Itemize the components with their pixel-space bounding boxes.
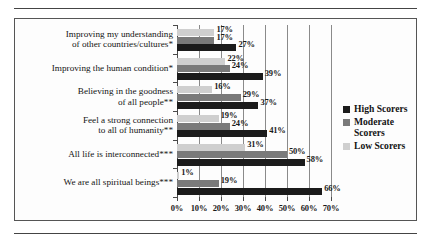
bar [177, 65, 230, 72]
category-label: Improving my understanding of other coun… [17, 29, 173, 50]
legend-item: High Scorers [343, 103, 415, 114]
category-label: All life is interconnected*** [17, 149, 173, 160]
x-tick-20 [221, 197, 222, 201]
bar-value-label: 50% [289, 147, 305, 156]
bar-group: 31%50%58% [177, 140, 331, 169]
bar [177, 144, 245, 151]
bar [177, 29, 214, 36]
bar-value-label: 66% [324, 184, 340, 193]
bar-value-label: 31% [247, 140, 263, 149]
bar-group: 22%24%39% [177, 54, 331, 83]
bar-group: 19%24%41% [177, 111, 331, 140]
bar [177, 115, 219, 122]
bar [177, 44, 236, 51]
gridline-70 [331, 25, 332, 197]
bar-group: 17%17%27% [177, 25, 331, 54]
legend-item: Moderate Scorers [343, 116, 415, 138]
bar-value-label: 16% [214, 82, 230, 91]
x-tick-10 [199, 197, 200, 201]
x-tick-label: 0% [171, 203, 183, 213]
bar [177, 58, 225, 65]
x-tick-label: 40% [257, 203, 273, 213]
chart-page: Improving my understanding of other coun… [0, 0, 431, 243]
legend-swatch-icon [343, 119, 350, 126]
x-tick-label: 10% [191, 203, 207, 213]
bar-value-label: 41% [269, 126, 285, 135]
x-tick-50 [287, 197, 288, 201]
top-divider-rule [14, 8, 417, 9]
bar [177, 86, 212, 93]
bar-group: 16%29%37% [177, 82, 331, 111]
x-tick-70 [331, 197, 332, 201]
bar-value-label: 19% [221, 176, 237, 185]
chart-frame: Improving my understanding of other coun… [14, 18, 417, 221]
plot-area: 0%10%20%30%40%50%60%70% 17%17%27%22%24%3… [177, 25, 331, 197]
bottom-divider-rule [14, 233, 417, 234]
bar-value-label: 58% [307, 155, 323, 164]
bar-group: 1%19%66% [177, 168, 331, 197]
category-label: Feel a strong connection to all of human… [17, 115, 173, 136]
bar-value-label: 24% [232, 119, 248, 128]
x-tick-0 [177, 197, 178, 201]
bar-value-label: 1% [181, 168, 193, 177]
bar [177, 188, 322, 195]
x-tick-40 [265, 197, 266, 201]
x-tick-label: 30% [235, 203, 251, 213]
bar-value-label: 17% [216, 33, 232, 42]
bar [177, 172, 179, 179]
chart-legend: High ScorersModerate ScorersLow Scorers [343, 103, 415, 153]
legend-item-label: High Scorers [354, 103, 407, 114]
legend-swatch-icon [343, 143, 350, 150]
category-label: We are all spiritual beings*** [17, 177, 173, 188]
bar [177, 37, 214, 44]
x-tick-label: 20% [213, 203, 229, 213]
bar [177, 180, 219, 187]
x-tick-label: 60% [301, 203, 317, 213]
bar-value-label: 27% [238, 40, 254, 49]
category-label: Believing in the goodness of all people*… [17, 86, 173, 107]
bar [177, 159, 305, 166]
legend-item-label: Low Scorers [354, 140, 405, 151]
bar [177, 102, 258, 109]
bar [177, 73, 263, 80]
x-tick-label: 70% [323, 203, 339, 213]
bar [177, 123, 230, 130]
legend-item-label: Moderate Scorers [354, 116, 415, 138]
bar [177, 151, 287, 158]
bar-value-label: 37% [260, 98, 276, 107]
legend-swatch-icon [343, 106, 350, 113]
category-label: Improving the human condition* [17, 63, 173, 74]
bar [177, 130, 267, 137]
bar-value-label: 39% [265, 69, 281, 78]
bar-value-label: 24% [232, 61, 248, 70]
x-tick-label: 50% [279, 203, 295, 213]
bar-value-label: 29% [243, 90, 259, 99]
x-tick-30 [243, 197, 244, 201]
legend-item: Low Scorers [343, 140, 415, 151]
x-tick-60 [309, 197, 310, 201]
bar [177, 94, 241, 101]
